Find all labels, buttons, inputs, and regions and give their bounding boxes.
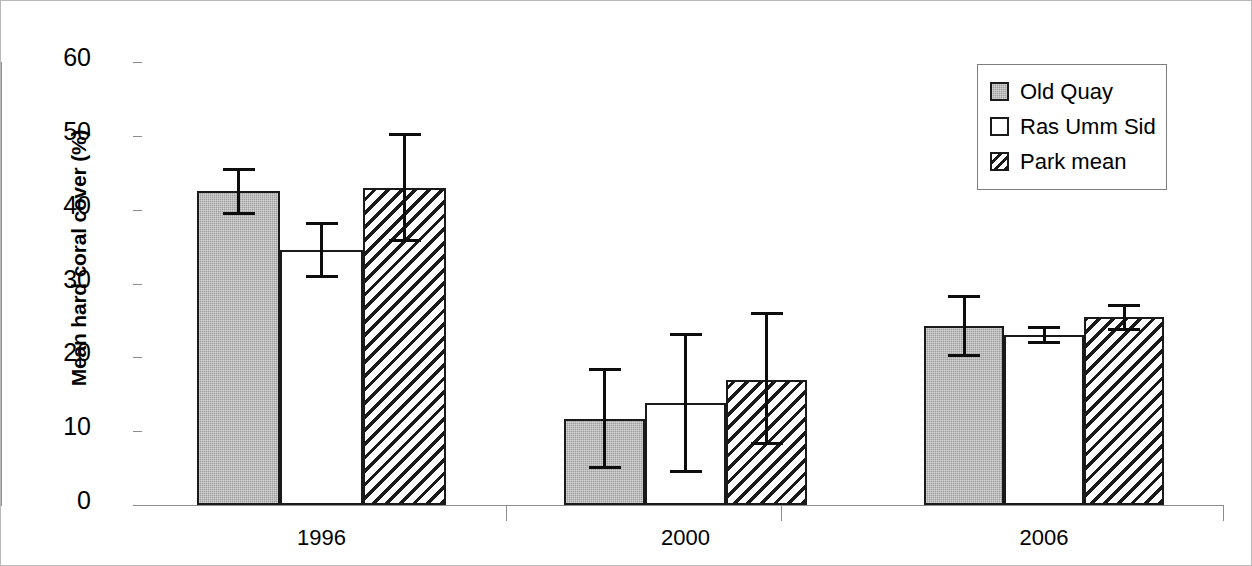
legend-label: Park mean bbox=[1020, 149, 1126, 175]
x-tick-mark bbox=[506, 506, 507, 521]
error-bar-cap-bottom bbox=[306, 275, 338, 278]
error-bar bbox=[302, 222, 342, 278]
y-tick-label: 60 bbox=[0, 45, 91, 70]
y-tick-mark bbox=[133, 210, 142, 211]
y-tick-mark bbox=[133, 505, 142, 506]
y-tick-label: 50 bbox=[0, 119, 91, 144]
x-tick-mark bbox=[1223, 506, 1224, 521]
error-bar bbox=[747, 312, 787, 445]
x-tick-mark bbox=[781, 506, 782, 521]
error-bar bbox=[385, 133, 425, 242]
legend-swatch-icon bbox=[990, 117, 1009, 136]
error-bar-stem bbox=[765, 312, 768, 445]
error-bar-cap-bottom bbox=[948, 354, 980, 357]
error-bar bbox=[1024, 326, 1064, 344]
error-bar bbox=[944, 295, 984, 357]
bar bbox=[1004, 335, 1084, 505]
x-tick-label: 2006 bbox=[964, 525, 1124, 551]
error-bar-stem bbox=[320, 222, 323, 278]
error-bar-stem bbox=[1123, 304, 1126, 331]
bar bbox=[280, 250, 363, 505]
error-bar-stem bbox=[684, 333, 687, 473]
error-bar-cap-bottom bbox=[751, 442, 783, 445]
x-axis-line bbox=[142, 505, 1224, 506]
error-bar-cap-bottom bbox=[589, 466, 621, 469]
x-tick-label: 2000 bbox=[606, 525, 766, 551]
y-tick-label: 10 bbox=[0, 414, 91, 439]
legend-item: Old Quay bbox=[990, 74, 1156, 109]
error-bar-cap-bottom bbox=[389, 239, 421, 242]
bar bbox=[1084, 317, 1164, 505]
y-tick-label: 0 bbox=[0, 488, 91, 513]
error-bar-stem bbox=[237, 168, 240, 215]
legend-label: Old Quay bbox=[1020, 79, 1113, 105]
bar bbox=[197, 191, 280, 505]
error-bar bbox=[1104, 304, 1144, 331]
y-tick-mark bbox=[133, 357, 142, 358]
error-bar-stem bbox=[403, 133, 406, 242]
error-bar-cap-bottom bbox=[223, 212, 255, 215]
x-tick-label: 1996 bbox=[242, 525, 402, 551]
error-bar bbox=[585, 368, 625, 468]
bar-chart-figure: Mean hard coral cover (%) 6050403020100 … bbox=[0, 0, 1252, 566]
legend-item: Park mean bbox=[990, 144, 1156, 179]
error-bar-stem bbox=[603, 368, 606, 468]
y-tick-mark bbox=[133, 136, 142, 137]
error-bar bbox=[666, 333, 706, 473]
legend-swatch-icon bbox=[990, 82, 1009, 101]
error-bar-cap-bottom bbox=[670, 470, 702, 473]
y-tick-mark bbox=[133, 284, 142, 285]
legend-label: Ras Umm Sid bbox=[1020, 114, 1156, 140]
y-tick-mark bbox=[133, 62, 142, 63]
error-bar-cap-bottom bbox=[1108, 328, 1140, 331]
error-bar bbox=[219, 168, 259, 215]
legend: Old QuayRas Umm SidPark mean bbox=[977, 64, 1167, 190]
legend-item: Ras Umm Sid bbox=[990, 109, 1156, 144]
y-tick-label: 30 bbox=[0, 267, 91, 292]
y-tick-mark bbox=[133, 431, 142, 432]
error-bar-cap-bottom bbox=[1028, 341, 1060, 344]
y-tick-label: 20 bbox=[0, 340, 91, 365]
error-bar-stem bbox=[963, 295, 966, 357]
y-tick-label: 40 bbox=[0, 193, 91, 218]
legend-swatch-icon bbox=[990, 152, 1009, 171]
